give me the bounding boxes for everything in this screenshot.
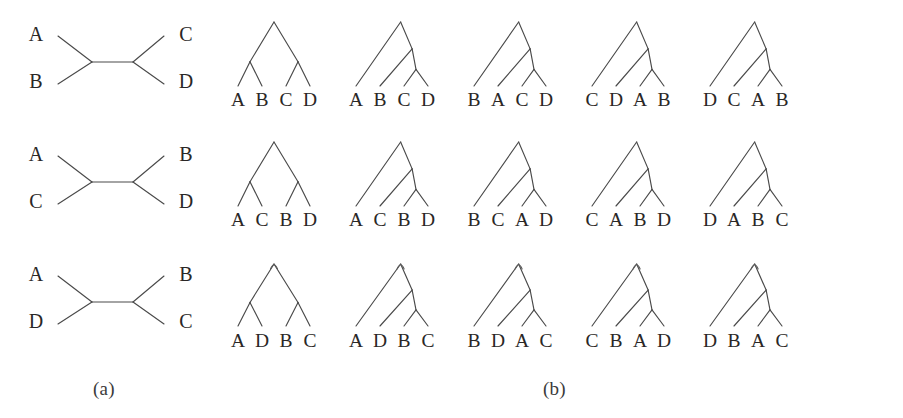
rooted-taxon-label: B (727, 330, 740, 351)
rooted-taxon-label: B (255, 89, 268, 110)
rooted-taxon-label: A (231, 330, 245, 351)
rooted-taxon-label: D (657, 209, 671, 230)
rooted-taxon-label: C (515, 89, 528, 110)
rooted-taxon-label: A (231, 89, 245, 110)
rooted-taxon-label: A (231, 209, 245, 230)
rooted-taxon-label: A (515, 330, 529, 351)
rooted-taxon-label: A (633, 330, 647, 351)
rooted-taxon-label: A (491, 89, 505, 110)
rooted-tree-r3-c1: ADBC (231, 264, 317, 351)
rooted-taxon-label: C (539, 330, 552, 351)
rooted-tree-r2-c2: ACBD (349, 142, 435, 230)
rooted-taxon-label: C (775, 209, 788, 230)
unrooted-taxon-bottom-left: D (29, 310, 43, 332)
rooted-taxon-label: D (421, 89, 435, 110)
rooted-taxon-label: D (373, 330, 387, 351)
rooted-taxon-label: C (397, 89, 410, 110)
rooted-tree-r3-c2: ADBC (349, 264, 435, 351)
rooted-taxon-label: D (491, 330, 505, 351)
rooted-tree-r2-c5: DABC (703, 142, 789, 230)
unrooted-taxon-top-right: B (179, 143, 192, 165)
rooted-tree-r1-c2: ABCD (349, 22, 435, 110)
unrooted-tree-row-3: ADBC (29, 263, 193, 332)
rooted-taxon-label: A (633, 89, 647, 110)
rooted-taxon-label: C (421, 330, 434, 351)
rooted-taxon-label: D (303, 89, 317, 110)
rooted-taxon-label: D (539, 209, 553, 230)
unrooted-taxon-top-left: A (29, 23, 44, 45)
rooted-tree-r1-c1: ABCD (231, 22, 317, 110)
unrooted-taxon-top-left: A (29, 263, 44, 285)
panel-caption-b: (b) (543, 378, 566, 400)
rooted-taxon-label: A (349, 330, 363, 351)
rooted-tree-r1-c5: DCAB (703, 22, 789, 110)
rooted-taxon-label: C (585, 330, 598, 351)
rooted-taxon-label: B (373, 89, 386, 110)
rooted-taxon-label: C (727, 89, 740, 110)
rooted-taxon-label: A (515, 209, 529, 230)
unrooted-taxon-bottom-left: C (29, 190, 42, 212)
rooted-taxon-label: D (703, 89, 717, 110)
rooted-taxon-label: D (703, 209, 717, 230)
unrooted-taxon-top-right: B (179, 263, 192, 285)
rooted-taxon-label: B (775, 89, 788, 110)
rooted-tree-r2-c4: CABD (585, 142, 671, 230)
rooted-taxon-label: B (279, 330, 292, 351)
rooted-taxon-label: D (421, 209, 435, 230)
rooted-taxon-label: D (609, 89, 623, 110)
unrooted-tree-row-2: ACBD (29, 143, 193, 212)
rooted-taxon-label: A (751, 89, 765, 110)
rooted-tree-r2-c3: BCAD (467, 142, 553, 230)
unrooted-taxon-bottom-left: B (29, 70, 42, 92)
unrooted-taxon-top-left: A (29, 143, 44, 165)
rooted-tree-r2-c1: ACBD (231, 142, 317, 230)
rooted-tree-r3-c3: BDAC (467, 264, 552, 351)
phylogenetic-tree-figure: ABCDACBDADBCABCDABCDBACDCDABDCABACBDACBD… (0, 0, 903, 418)
rooted-taxon-label: C (255, 209, 268, 230)
rooted-tree-r3-c4: CBAD (585, 264, 671, 351)
unrooted-taxon-bottom-right: C (179, 310, 192, 332)
rooted-taxon-label: B (397, 209, 410, 230)
rooted-taxon-label: C (303, 330, 316, 351)
rooted-taxon-label: A (751, 330, 765, 351)
rooted-taxon-label: D (657, 330, 671, 351)
rooted-taxon-label: B (467, 330, 480, 351)
rooted-taxon-label: C (279, 89, 292, 110)
rooted-taxon-label: C (373, 209, 386, 230)
rooted-tree-r1-c4: CDAB (585, 22, 670, 110)
rooted-tree-r1-c3: BACD (467, 22, 553, 110)
rooted-taxon-label: A (349, 89, 363, 110)
rooted-taxon-label: B (397, 330, 410, 351)
rooted-taxon-label: A (727, 209, 741, 230)
rooted-taxon-label: D (255, 330, 269, 351)
tree-canvas: ABCDACBDADBCABCDABCDBACDCDABDCABACBDACBD… (0, 0, 903, 418)
rooted-taxon-label: B (633, 209, 646, 230)
rooted-taxon-label: C (491, 209, 504, 230)
unrooted-taxon-top-right: C (179, 23, 192, 45)
panel-caption-a: (a) (93, 378, 115, 400)
rooted-taxon-label: D (539, 89, 553, 110)
rooted-taxon-label: B (751, 209, 764, 230)
rooted-tree-r3-c5: DBAC (703, 264, 789, 351)
rooted-taxon-label: D (303, 209, 317, 230)
rooted-taxon-label: B (467, 209, 480, 230)
unrooted-taxon-bottom-right: D (179, 70, 193, 92)
unrooted-tree-row-1: ABCD (29, 23, 193, 92)
rooted-taxon-label: D (703, 330, 717, 351)
rooted-taxon-label: B (467, 89, 480, 110)
rooted-taxon-label: B (657, 89, 670, 110)
rooted-taxon-label: C (585, 89, 598, 110)
unrooted-taxon-bottom-right: D (179, 190, 193, 212)
rooted-taxon-label: A (609, 209, 623, 230)
rooted-taxon-label: A (349, 209, 363, 230)
rooted-taxon-label: C (775, 330, 788, 351)
rooted-taxon-label: C (585, 209, 598, 230)
rooted-taxon-label: B (279, 209, 292, 230)
rooted-taxon-label: B (609, 330, 622, 351)
